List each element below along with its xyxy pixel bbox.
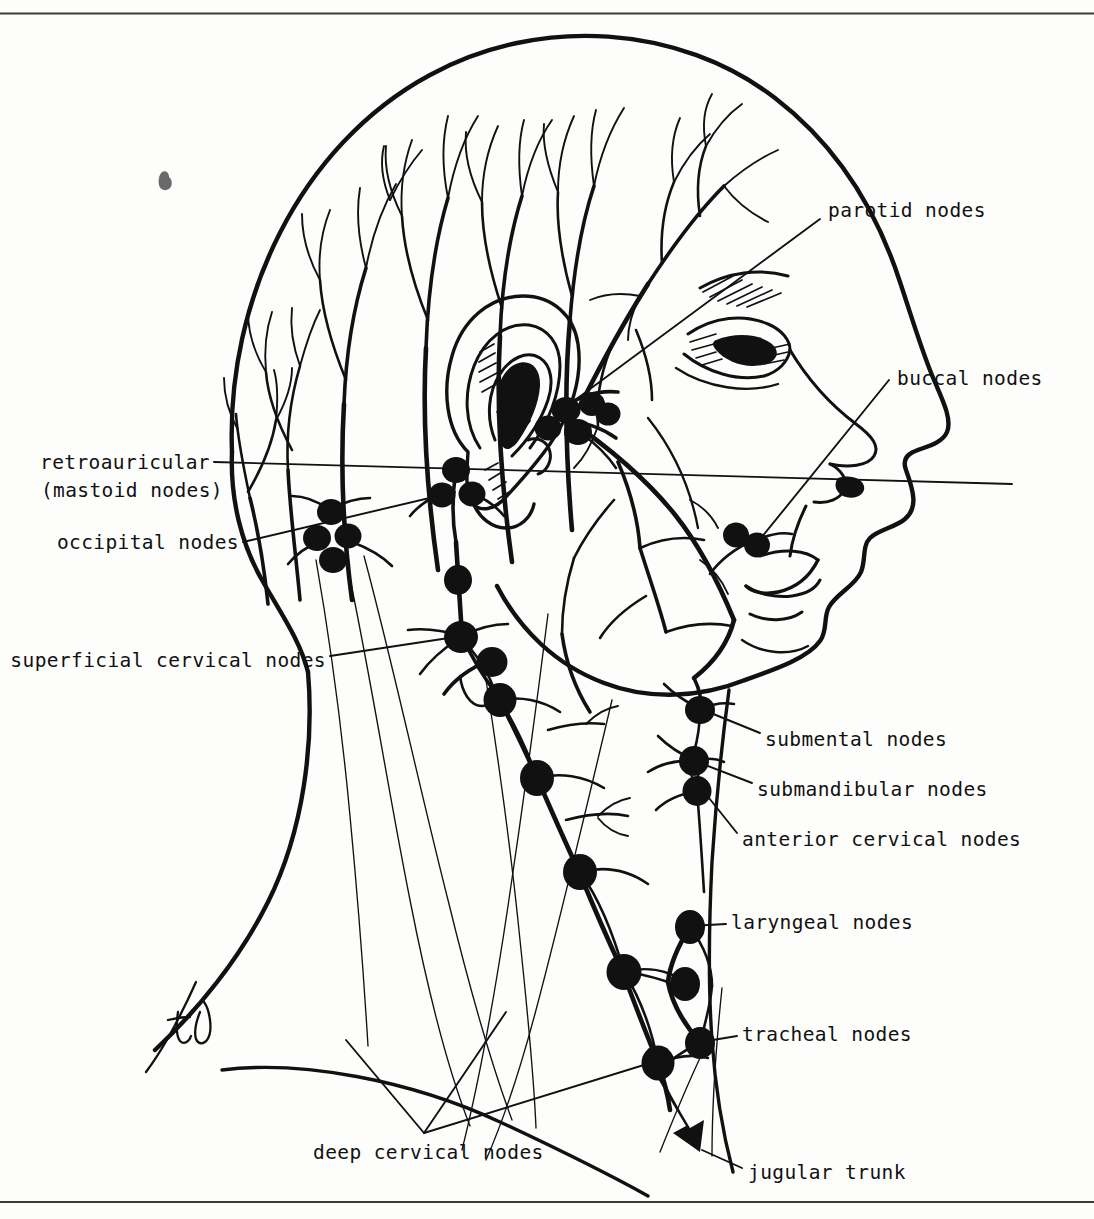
occipital-nodes <box>288 496 392 573</box>
leader-submental <box>701 709 760 733</box>
label-laryngeal-nodes: laryngeal nodes <box>731 910 913 936</box>
label-buccal-nodes: buccal nodes <box>897 366 1043 392</box>
label-occipital-nodes: occipital nodes <box>0 530 239 556</box>
label-superficial-cervical-nodes: superficial cervical nodes <box>0 648 326 674</box>
leader-deep-cervical-a <box>346 1040 424 1133</box>
ink-smudge <box>159 171 172 190</box>
label-retroauricular-nodes: retroauricular <box>0 450 210 476</box>
label-anterior-cervical-nodes: anterior cervical nodes <box>742 827 1021 853</box>
label-deep-cervical-nodes: deep cervical nodes <box>313 1140 544 1166</box>
label-submental-nodes: submental nodes <box>765 727 947 753</box>
superficial-cervical-nodes <box>408 542 508 706</box>
figure-page: .ol{fill:none;stroke:#111;stroke-width:4… <box>0 0 1094 1219</box>
label-submandibular-nodes: submandibular nodes <box>757 777 988 803</box>
label-mastoid-nodes: (mastoid nodes) <box>0 478 223 504</box>
label-tracheal-nodes: tracheal nodes <box>742 1022 912 1048</box>
leader-jugular-trunk <box>702 1150 742 1168</box>
leader-parotid <box>563 219 820 409</box>
leader-deep-cervical-c <box>424 1012 506 1133</box>
label-jugular-trunk: jugular trunk <box>748 1160 906 1186</box>
lymphatic-head-neck-diagram: .ol{fill:none;stroke:#111;stroke-width:4… <box>0 0 1094 1219</box>
facial-lymphatic-vessels <box>562 418 792 762</box>
leader-superficial-cervical <box>330 636 462 656</box>
label-parotid-nodes: parotid nodes <box>828 198 986 224</box>
deep-cervical-nodes <box>484 683 709 1110</box>
